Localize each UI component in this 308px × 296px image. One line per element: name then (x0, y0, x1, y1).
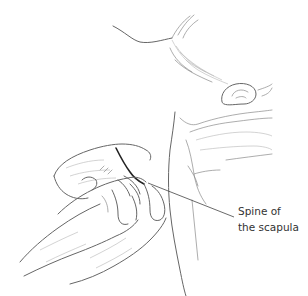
label-line-2: the scapula (238, 219, 299, 235)
spine-of-scapula-label: Spine of the scapula (238, 203, 299, 235)
label-line-1: Spine of (238, 203, 299, 219)
scapula-illustration: Spine of the scapula (0, 0, 308, 296)
ear (222, 83, 272, 104)
head-outline (113, 15, 228, 84)
line-art-drawing (0, 0, 308, 296)
leader-line (148, 183, 234, 217)
